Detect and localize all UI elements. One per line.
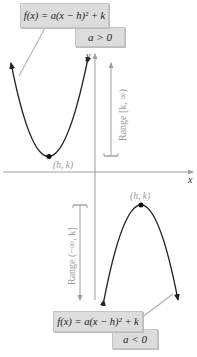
upward-parabola [11, 63, 87, 157]
equation-text-bottom: f(x) = a(x − h)² + k [57, 316, 139, 327]
callout-line-top [19, 28, 45, 76]
y-axis-label: y [85, 50, 91, 61]
condition-box-positive: a > 0 [75, 27, 125, 47]
condition-text-positive: a > 0 [88, 31, 112, 43]
parabola-diagram: y x (h, k) Range [k, ∞) (h, k) Range (−∞… [0, 0, 197, 357]
x-axis-label: x [187, 174, 193, 185]
range-label-top: Range [k, ∞) [117, 89, 129, 141]
condition-text-negative: a < 0 [123, 333, 147, 345]
vertex-point-min [47, 154, 52, 159]
equation-text-top: f(x) = a(x − h)² + k [24, 10, 106, 21]
vertex-point-max [139, 203, 144, 208]
downward-parabola [104, 205, 178, 300]
vertex-label-min: (h, k) [53, 160, 73, 171]
condition-box-negative: a < 0 [112, 329, 158, 349]
range-label-bottom: Range (−∞, k] [66, 228, 78, 285]
callout-line-bottom [141, 294, 173, 318]
vertex-label-max: (h, k) [130, 191, 150, 202]
equation-box-bottom: f(x) = a(x − h)² + k [53, 311, 143, 332]
equation-box-top: f(x) = a(x − h)² + k [20, 3, 109, 28]
